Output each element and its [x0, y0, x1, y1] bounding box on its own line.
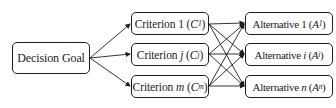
alternative-subscript: n	[319, 82, 322, 91]
alternative-label: Alternative	[255, 49, 301, 61]
criterion-label: Criterion	[133, 81, 174, 93]
edge-goal-criterion-m	[90, 58, 130, 86]
decision-goal-node: Decision Goal	[12, 42, 90, 74]
criterion-subscript: j	[197, 50, 199, 59]
alternative-index: n	[301, 81, 306, 93]
edge-goal-criterion-1	[90, 24, 130, 58]
criterion-symbol: C	[190, 18, 198, 30]
criterion-symbol: C	[191, 81, 199, 93]
criterion-m-node: Criterion m (Cm)	[131, 75, 209, 98]
alternative-index: 1	[301, 18, 306, 30]
alternative-i-node: Alternative i (Ai)	[245, 43, 333, 66]
edge-goal-criterion-j	[90, 54, 130, 58]
alternative-index: i	[303, 49, 306, 61]
criterion-label: Criterion	[137, 49, 178, 61]
criterion-index: j	[180, 49, 183, 61]
criterion-1-node: Criterion 1 (C1)	[131, 12, 209, 35]
criterion-index: 1	[178, 18, 184, 30]
criterion-j-node: Criterion j (Cj)	[131, 43, 209, 66]
alternative-subscript: i	[318, 50, 320, 59]
criterion-index: m	[176, 81, 184, 93]
alternative-n-node: Alternative n (An)	[245, 75, 333, 98]
alternative-label: Alternative	[253, 18, 299, 30]
alternative-1-node: Alternative 1 (A1)	[245, 12, 333, 35]
criterion-subscript: m	[198, 82, 203, 91]
alternative-label: Alternative	[253, 81, 299, 93]
criterion-subscript: 1	[198, 19, 202, 28]
criterion-label: Criterion	[135, 18, 176, 30]
alternative-subscript: 1	[319, 19, 322, 28]
decision-goal-label: Decision Goal	[17, 51, 85, 66]
